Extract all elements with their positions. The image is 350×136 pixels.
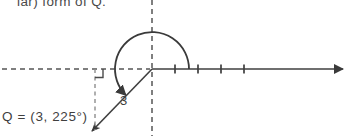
figure-container: lar) form of Q. Q = (3, 225°) 3: [0, 0, 350, 136]
radius-length-label: 3: [120, 93, 127, 108]
right-angle-marker: [95, 69, 103, 78]
prompt-text: lar) form of Q.: [17, 0, 106, 9]
point-coordinate-label: Q = (3, 225°): [2, 109, 88, 124]
